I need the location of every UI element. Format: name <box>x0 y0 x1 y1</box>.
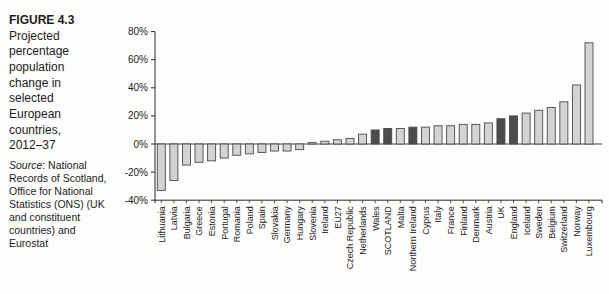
y-tick-label: 0% <box>134 139 149 150</box>
x-label-switzerland: Switzerland <box>559 206 569 253</box>
x-label-sweden: Sweden <box>534 206 544 239</box>
bar-luxembourg <box>585 43 593 144</box>
x-label-lithuania: Lithuania <box>157 206 167 243</box>
y-tick-label: 40% <box>128 82 148 93</box>
bar-iceland <box>522 113 530 144</box>
x-label-luxembourg: Luxembourg <box>584 206 594 256</box>
x-label-norway: Norway <box>572 206 582 237</box>
y-tick-label: -20% <box>125 167 148 178</box>
bar-cyprus <box>421 127 429 144</box>
chart-svg: 80%60%40%20%0%-20%-40%LithuaniaLatviaBul… <box>0 0 609 294</box>
x-label-iceland: Iceland <box>522 206 532 235</box>
bar-norway <box>572 85 580 144</box>
bar-spain <box>258 144 266 152</box>
figure-panel: FIGURE 4.3 Projected percentage populati… <box>0 0 609 294</box>
x-label-england: England <box>509 206 519 239</box>
x-label-czech-republic: Czech Republic <box>345 206 355 270</box>
x-label-estonia: Estonia <box>207 206 217 236</box>
bar-poland <box>245 144 253 154</box>
bar-netherlands <box>359 134 367 144</box>
x-label-scotland: SCOTLAND <box>383 206 393 256</box>
bar-chart: 80%60%40%20%0%-20%-40%LithuaniaLatviaBul… <box>0 0 609 294</box>
bar-england <box>510 116 518 144</box>
x-label-romania: Romania <box>232 206 242 242</box>
bar-portugal <box>220 144 228 158</box>
x-label-italy: Italy <box>433 206 443 223</box>
x-label-netherlands: Netherlands <box>358 206 368 255</box>
bar-czech-republic <box>346 138 354 144</box>
x-label-latvia: Latvia <box>169 206 179 230</box>
x-label-slovenia: Slovenia <box>308 206 318 241</box>
x-label-spain: Spain <box>257 206 267 229</box>
bar-latvia <box>170 144 178 181</box>
x-label-portugal: Portugal <box>220 206 230 240</box>
bar-belgium <box>547 107 555 144</box>
x-label-greece: Greece <box>194 206 204 236</box>
bar-switzerland <box>560 102 568 144</box>
bar-hungary <box>296 144 304 150</box>
bar-estonia <box>208 144 216 161</box>
bar-greece <box>195 144 203 162</box>
y-tick-label: -40% <box>125 195 148 206</box>
x-label-cyprus: Cyprus <box>421 206 431 235</box>
x-label-hungary: Hungary <box>295 206 305 241</box>
x-label-eu27: EU27 <box>333 206 343 229</box>
x-label-denmark: Denmark <box>471 206 481 243</box>
x-label-finland: Finland <box>459 206 469 236</box>
x-label-northern-ireland: Northern Ireland <box>408 206 418 271</box>
x-label-wales: Wales <box>371 206 381 231</box>
x-label-ireland: Ireland <box>320 206 330 234</box>
x-label-bulgaria: Bulgaria <box>182 206 192 239</box>
x-label-germany: Germany <box>282 206 292 244</box>
bar-slovakia <box>271 144 279 151</box>
bar-slovenia <box>308 143 316 144</box>
bar-finland <box>459 124 467 144</box>
x-label-malta: Malta <box>396 206 406 228</box>
x-label-france: France <box>446 206 456 234</box>
bar-austria <box>484 123 492 144</box>
x-label-belgium: Belgium <box>547 206 557 239</box>
bar-scotland <box>384 129 392 144</box>
bar-malta <box>396 129 404 144</box>
bar-uk <box>497 119 505 144</box>
bar-sweden <box>535 110 543 144</box>
bar-ireland <box>321 141 329 144</box>
bar-denmark <box>472 124 480 144</box>
bar-bulgaria <box>182 144 190 165</box>
bar-germany <box>283 144 291 151</box>
x-label-poland: Poland <box>245 206 255 234</box>
bar-eu27 <box>333 140 341 144</box>
x-label-uk: UK <box>496 206 506 219</box>
bar-northern-ireland <box>409 127 417 144</box>
bar-italy <box>434 126 442 144</box>
bar-france <box>447 126 455 144</box>
x-label-slovakia: Slovakia <box>270 206 280 240</box>
bar-wales <box>371 130 379 144</box>
y-tick-label: 20% <box>128 110 148 121</box>
x-label-austria: Austria <box>484 206 494 234</box>
y-tick-label: 60% <box>128 54 148 65</box>
y-tick-label: 80% <box>128 26 148 37</box>
bar-lithuania <box>157 144 165 190</box>
bar-romania <box>233 144 241 155</box>
